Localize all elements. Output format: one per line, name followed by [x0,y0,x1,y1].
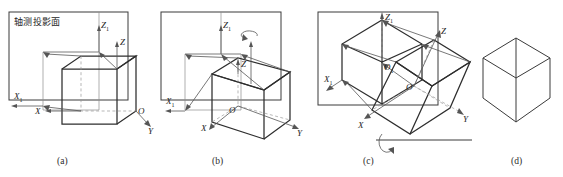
caption-c: (c) [363,156,374,166]
axis-z-a [115,41,119,69]
axis-x1-label-b: X1 [165,96,175,108]
axis-x-label-c: X [357,120,364,130]
panel-d-drawing [470,0,563,177]
panel-c-drawing: Z1 Z O1 O X1 [310,0,482,177]
cube-d [483,38,550,122]
caption-b: (b) [212,156,223,166]
axis-z-label-c: Z [441,26,447,36]
rotation-arrow-b[interactable] [241,31,257,41]
rotation-arrow-c[interactable] [379,134,394,154]
axis-x1-label-c: X1 [323,74,333,86]
axis-y-label-a: Y [148,126,154,136]
axis-x-a [45,109,81,113]
caption-d: (d) [511,156,522,166]
axis-z-label-a: Z [120,37,126,47]
panel-b: Z1 Z X1 [155,0,315,177]
figure-container: Z1 Z X1 X [0,0,563,177]
panel-a: Z1 Z X1 X [0,0,160,177]
cube-c [372,40,470,134]
panel-d [470,0,563,177]
axis-x1-b [165,109,185,113]
projected-cube-b [185,54,241,110]
origin-label-b: O [229,105,236,115]
projection-plane-label: 轴测投影面 [14,15,61,28]
axis-y-label-b: Y [297,128,303,138]
axis-x1-label-a: X1 [13,91,23,103]
origin1-label-c: O1 [384,62,394,74]
axis-x-label-a: X [34,106,41,116]
projector-arrows-a [43,52,117,111]
projector-arrows-c [342,20,470,110]
panel-b-drawing: Z1 Z X1 [155,0,315,177]
axis-z1-label-c: Z1 [385,12,393,24]
axis-x-c [364,86,414,119]
axis-y-c [414,86,464,115]
axis-x-label-b: X [200,123,207,133]
axis-z-c [414,30,441,86]
axis-z1-label-a: Z1 [101,20,109,32]
caption-a: (a) [57,156,68,166]
axis-z1-c [380,12,384,20]
axis-y-label-c: Y [463,114,469,124]
axis-z1-label-b: Z1 [223,20,231,32]
projection-plane-rect-c [318,12,438,105]
origin-label-a: O [138,106,145,116]
panel-c: Z1 Z O1 O X1 [310,0,482,177]
projected-cube-a [43,52,99,110]
